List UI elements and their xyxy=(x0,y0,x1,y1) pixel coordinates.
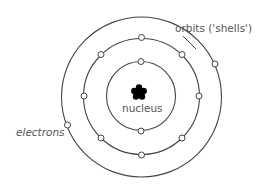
electron xyxy=(98,135,104,141)
bohr-atom-diagram: orbits ('shells') electrons nucleus xyxy=(0,0,269,188)
electron xyxy=(138,128,144,134)
electron xyxy=(81,93,87,99)
electron xyxy=(138,59,144,65)
electrons-label: electrons xyxy=(16,126,65,138)
electron xyxy=(139,35,145,41)
orbits-leader-line xyxy=(183,36,196,49)
electron xyxy=(212,61,218,67)
electron xyxy=(98,52,104,58)
electron xyxy=(179,135,185,141)
nucleus-label: nucleus xyxy=(122,102,163,114)
electron xyxy=(139,152,145,158)
electron xyxy=(179,52,185,58)
orbits-label: orbits ('shells') xyxy=(175,22,252,34)
nucleus-icon xyxy=(131,84,147,99)
electron xyxy=(65,122,71,128)
electron xyxy=(196,93,202,99)
